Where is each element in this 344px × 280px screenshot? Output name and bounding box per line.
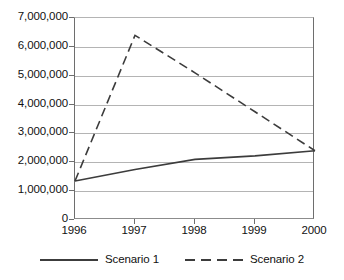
y-tick-label: 0 — [2, 213, 68, 225]
y-tick-label: 6,000,000 — [2, 40, 68, 52]
series-line-scenario-1 — [75, 151, 315, 181]
legend-label: Scenario 1 — [105, 254, 159, 266]
line-chart-figure: 01,000,0002,000,0003,000,0004,000,0005,0… — [0, 0, 344, 280]
y-tick-label: 3,000,000 — [2, 126, 68, 138]
x-tick-label: 1999 — [228, 225, 280, 237]
y-tick-label: 1,000,000 — [2, 184, 68, 196]
y-tick-label: 7,000,000 — [2, 11, 68, 23]
x-tick-label: 1997 — [108, 225, 160, 237]
x-tick-label: 1998 — [168, 225, 220, 237]
dashed-line-swatch — [185, 255, 243, 265]
y-tick-label: 4,000,000 — [2, 98, 68, 110]
legend-entry-scenario-2[interactable]: Scenario 2 — [185, 254, 304, 266]
legend-entry-scenario-1[interactable]: Scenario 1 — [40, 254, 159, 266]
y-tick-label: 5,000,000 — [2, 69, 68, 81]
y-tick-label: 2,000,000 — [2, 155, 68, 167]
legend-label: Scenario 2 — [250, 254, 304, 266]
x-tick-label: 2000 — [288, 225, 340, 237]
plot-area — [74, 17, 314, 219]
y-tick-mark — [69, 219, 74, 220]
x-tick-label: 1996 — [48, 225, 100, 237]
series-lines — [75, 18, 315, 220]
chart-legend: Scenario 1Scenario 2 — [0, 254, 344, 266]
solid-line-swatch — [40, 255, 98, 265]
